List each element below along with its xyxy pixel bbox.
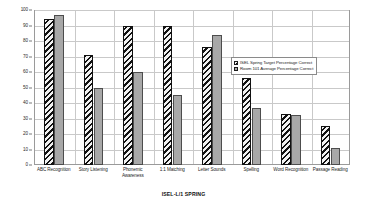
chart-legend: ISEL Spring Target Percentage CorrectRoo… (231, 57, 317, 75)
y-axis-tick-label: 100 (21, 8, 28, 13)
legend-item: Room 101 Average Percentage Correct (234, 66, 313, 72)
y-axis-tick-mark (29, 41, 32, 42)
bar (281, 114, 291, 165)
legend-label: ISEL Spring Target Percentage Correct (240, 61, 312, 65)
x-axis-category-label: Letter Sounds (192, 167, 232, 173)
y-axis-tick-mark (29, 25, 32, 26)
bar (163, 26, 173, 166)
x-axis-category-label: Phonemic Awareness (113, 167, 153, 178)
y-axis-tick-mark (29, 10, 32, 11)
x-axis-category-label: Story Listening (74, 167, 114, 173)
bar-group (232, 10, 272, 165)
y-axis-tick-label: 20 (23, 132, 28, 137)
bar-group (192, 10, 232, 165)
x-axis-category-label: Spelling (232, 167, 272, 173)
y-axis-tick-label: 70 (23, 54, 28, 59)
y-axis-tick-mark (29, 56, 32, 57)
bar (44, 19, 54, 165)
y-axis-tick-label: 60 (23, 70, 28, 75)
bar-group (311, 10, 351, 165)
x-axis-category-label: Word Recognition (271, 167, 311, 173)
bar (84, 55, 94, 165)
y-axis-tick-mark (29, 103, 32, 104)
bar (242, 78, 252, 165)
bar (252, 108, 262, 165)
y-axis-tick-label: 80 (23, 39, 28, 44)
y-axis-tick-mark (29, 165, 32, 166)
bar (321, 126, 331, 165)
y-axis-tick-label: 30 (23, 116, 28, 121)
y-axis-tick-mark (29, 118, 32, 119)
legend-label: Room 101 Average Percentage Correct (240, 67, 313, 71)
bar (133, 72, 143, 165)
y-axis-tick-label: 0 (26, 163, 28, 168)
bar (212, 35, 222, 165)
bar (202, 47, 212, 165)
bar (331, 148, 341, 165)
y-axis-tick-mark (29, 72, 32, 73)
y-axis-tick-label: 50 (23, 85, 28, 90)
y-axis-tick-mark (29, 134, 32, 135)
x-axis-category-label: 1:1 Matching (153, 167, 193, 173)
y-axis-tick-label: 10 (23, 147, 28, 152)
bar-group (74, 10, 114, 165)
legend-swatch-icon (234, 67, 238, 71)
y-axis-tick-mark (29, 87, 32, 88)
bar (173, 95, 183, 165)
x-axis-title: ISEL-L/1 SPRING (0, 191, 367, 197)
bars-layer (34, 10, 350, 165)
bar-chart: 0102030405060708090100 ABC RecognitionSt… (0, 0, 367, 206)
bar (123, 26, 133, 166)
bar (291, 115, 301, 165)
bar-group (271, 10, 311, 165)
y-axis-tick-label: 90 (23, 23, 28, 28)
x-axis-category-label: Passage Reading (311, 167, 351, 173)
bar (54, 15, 64, 165)
bar-group (153, 10, 193, 165)
y-axis-tick-mark (29, 149, 32, 150)
bar-group (113, 10, 153, 165)
bar (94, 88, 104, 166)
x-axis-category-label: ABC Recognition (34, 167, 74, 173)
legend-swatch-icon (234, 61, 238, 65)
y-axis: 0102030405060708090100 (0, 10, 32, 165)
bar-group (34, 10, 74, 165)
y-axis-tick-label: 40 (23, 101, 28, 106)
x-axis-category-labels: ABC RecognitionStory ListeningPhonemic A… (34, 167, 350, 189)
